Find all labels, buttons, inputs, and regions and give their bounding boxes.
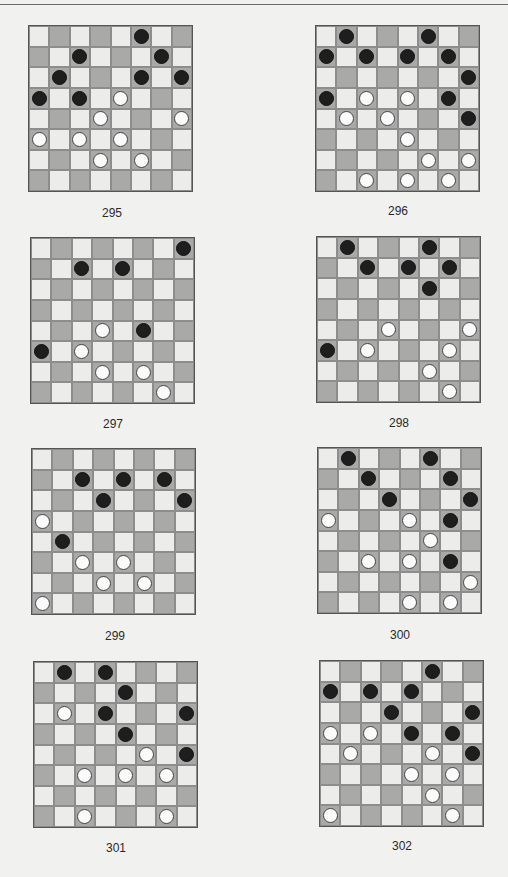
board-square (402, 682, 422, 703)
board-square (70, 150, 90, 171)
board-square (440, 592, 460, 613)
board-square (463, 785, 483, 806)
board-square (420, 551, 440, 572)
board-square (317, 361, 337, 382)
board-square (51, 382, 71, 403)
board-square (111, 67, 131, 88)
white-checker-piece (462, 322, 477, 337)
board-square (418, 47, 438, 68)
board-square (175, 593, 195, 614)
board-square (461, 489, 481, 510)
board-square (73, 490, 93, 511)
black-checker-piece (339, 29, 354, 44)
board-square (90, 129, 110, 150)
board-square (151, 26, 171, 47)
board-square (156, 662, 176, 683)
board-square (154, 511, 174, 532)
board-square (461, 592, 481, 613)
board-square (92, 321, 112, 342)
checkers-diagram-299 (31, 448, 196, 615)
board-square (357, 170, 377, 191)
checkers-diagram-296 (315, 25, 480, 192)
board-square (377, 170, 397, 191)
board-square (320, 744, 340, 765)
diagram-number: 301 (86, 841, 146, 855)
board-square (90, 88, 110, 109)
white-checker-piece (421, 153, 436, 168)
white-checker-piece (74, 344, 89, 359)
board-square (422, 744, 442, 765)
black-checker-piece (382, 492, 397, 507)
board-square (153, 259, 173, 280)
board-square (379, 489, 399, 510)
board-square (111, 88, 131, 109)
board-square (460, 320, 480, 341)
board-square (131, 109, 151, 130)
board-square (340, 723, 360, 744)
board-square (49, 150, 69, 171)
board-square (75, 786, 95, 807)
board-square (75, 662, 95, 683)
board-square (317, 299, 337, 320)
board-square (136, 662, 156, 683)
black-checker-piece (55, 534, 70, 549)
board-square (70, 88, 90, 109)
board-square (151, 170, 171, 191)
board-square (338, 531, 358, 552)
board-square (73, 449, 93, 470)
board-square (136, 703, 156, 724)
board-square (438, 170, 458, 191)
board-square (174, 238, 194, 259)
board-square (460, 278, 480, 299)
board-square (175, 532, 195, 553)
board-square (377, 26, 397, 47)
board-square (156, 724, 176, 745)
black-checker-piece (404, 684, 419, 699)
board-square (378, 381, 398, 402)
board-square (438, 26, 458, 47)
black-checker-piece (425, 664, 440, 679)
board-square (92, 341, 112, 362)
board-square (29, 67, 49, 88)
board-square (439, 258, 459, 279)
board-square (338, 551, 358, 572)
black-checker-piece (323, 684, 338, 699)
board-square (399, 340, 419, 361)
board-square (92, 279, 112, 300)
board-square (131, 67, 151, 88)
board-square (418, 170, 438, 191)
white-checker-piece (118, 768, 133, 783)
board-square (72, 300, 92, 321)
board-square (460, 258, 480, 279)
board-square (92, 238, 112, 259)
board-square (133, 341, 153, 362)
white-checker-piece (443, 595, 458, 610)
board-square (317, 278, 337, 299)
board-square (29, 47, 49, 68)
board-square (337, 340, 357, 361)
white-checker-piece (359, 91, 374, 106)
board-square (52, 490, 72, 511)
top-rule (0, 4, 508, 5)
board-square (151, 67, 171, 88)
board-square (359, 572, 379, 593)
board-square (340, 682, 360, 703)
white-checker-piece (32, 132, 47, 147)
board-square (95, 745, 115, 766)
board-square (399, 299, 419, 320)
board-square (340, 661, 360, 682)
board-square (461, 551, 481, 572)
black-checker-piece (179, 706, 194, 721)
board-square (93, 532, 113, 553)
board-square (440, 510, 460, 531)
board-square (418, 88, 438, 109)
board-square (399, 258, 419, 279)
board-square (317, 320, 337, 341)
board-square (419, 237, 439, 258)
white-checker-piece (360, 343, 375, 358)
board-square (340, 785, 360, 806)
board-square (93, 552, 113, 573)
black-checker-piece (461, 70, 476, 85)
board-square (174, 279, 194, 300)
board-square (114, 490, 134, 511)
